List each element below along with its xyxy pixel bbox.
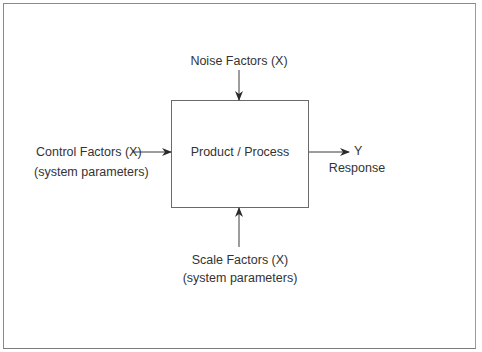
noise-factors-label: Noise Factors (X): [190, 54, 287, 69]
scale-factors-sublabel: (system parameters): [183, 271, 298, 286]
scale-factors-label: Scale Factors (X): [192, 253, 289, 268]
process-box-label: Product / Process: [191, 145, 290, 160]
output-y-label: Y: [354, 144, 362, 159]
control-factors-sublabel: (system parameters): [34, 165, 149, 180]
response-label: Response: [329, 161, 385, 176]
control-factors-label: Control Factors (X): [36, 145, 142, 160]
